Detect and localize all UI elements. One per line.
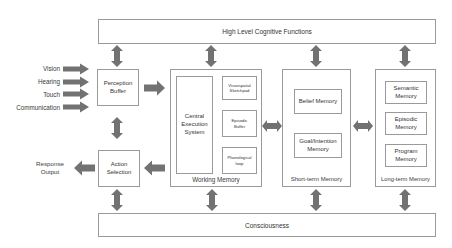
arrows-layer bbox=[0, 0, 452, 248]
bottom-stm-double-arrow-icon bbox=[310, 189, 322, 211]
hearing-arrow-icon bbox=[63, 77, 89, 88]
bottom-action-double-arrow-icon bbox=[111, 189, 123, 211]
perception-to-wm-arrow-icon bbox=[144, 81, 165, 96]
stm-ltm-double-arrow-icon bbox=[353, 120, 373, 132]
touch-arrow-icon bbox=[63, 89, 89, 100]
top-wm-double-arrow-icon bbox=[205, 45, 217, 67]
top-perception-double-arrow-icon bbox=[111, 45, 123, 67]
top-ltm-double-arrow-icon bbox=[399, 45, 411, 67]
vision-arrow-icon bbox=[63, 64, 89, 75]
wm-to-action-arrow-icon bbox=[144, 161, 165, 176]
bottom-wm-double-arrow-icon bbox=[206, 189, 218, 211]
bottom-ltm-double-arrow-icon bbox=[399, 189, 411, 211]
wm-stm-double-arrow-icon bbox=[262, 120, 282, 132]
communication-arrow-icon bbox=[63, 102, 89, 113]
top-stm-double-arrow-icon bbox=[310, 45, 322, 67]
response-output-arrow-icon bbox=[74, 161, 95, 176]
perception-action-double-arrow-icon bbox=[111, 117, 123, 139]
